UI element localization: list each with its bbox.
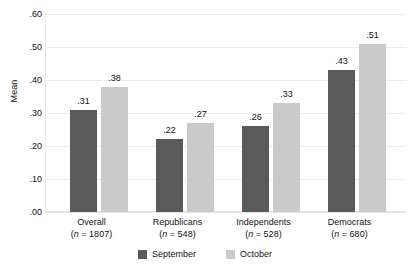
y-axis-tick-60: .60	[2, 10, 42, 19]
category-sample-size: (n = 680)	[295, 228, 405, 240]
legend-label: October	[240, 249, 272, 259]
category-name: Overall	[77, 217, 106, 227]
bar-chart: Mean .60.50.40.30.20.10.00 .31.38.22.27.…	[0, 0, 410, 268]
bar-democrats-october: .51	[359, 44, 386, 212]
bar-value-label: .51	[366, 31, 379, 40]
bar-independents-october: .33	[273, 103, 300, 212]
y-axis-tick-10: .10	[2, 175, 42, 184]
bar-value-label: .38	[108, 74, 121, 83]
bar-democrats-september: .43	[328, 70, 355, 212]
bar-group-democrats: .43.51	[315, 14, 399, 212]
category-name: Independents	[236, 217, 291, 227]
bar-independents-september: .26	[242, 126, 269, 212]
bar-republicans-october: .27	[187, 123, 214, 212]
y-axis-tick-20: .20	[2, 142, 42, 151]
category-name: Democrats	[328, 217, 372, 227]
bar-group-independents: .26.33	[229, 14, 313, 212]
bar-overall-september: .31	[70, 110, 97, 212]
bar-group-overall: .31.38	[57, 14, 141, 212]
bar-value-label: .26	[249, 113, 262, 122]
bar-value-label: .43	[335, 57, 348, 66]
bar-value-label: .22	[163, 126, 176, 135]
y-axis-tick-30: .30	[2, 109, 42, 118]
category-name: Republicans	[153, 217, 203, 227]
legend-swatch-october	[226, 250, 235, 259]
legend: SeptemberOctober	[0, 249, 410, 259]
bar-group-republicans: .22.27	[143, 14, 227, 212]
legend-item-october[interactable]: October	[226, 249, 272, 259]
legend-label: September	[152, 249, 196, 259]
legend-swatch-september	[138, 250, 147, 259]
bar-republicans-september: .22	[156, 139, 183, 212]
legend-item-september[interactable]: September	[138, 249, 196, 259]
plot-area: .31.38.22.27.26.33.43.51	[45, 14, 406, 212]
bar-value-label: .31	[77, 97, 90, 106]
y-axis-tick-50: .50	[2, 43, 42, 52]
x-axis-label-democrats: Democrats(n = 680)	[295, 216, 405, 240]
bar-value-label: .27	[194, 110, 207, 119]
y-axis-tick-40: .40	[2, 76, 42, 85]
bar-overall-october: .38	[101, 87, 128, 212]
gridline	[46, 212, 406, 213]
bar-value-label: .33	[280, 90, 293, 99]
